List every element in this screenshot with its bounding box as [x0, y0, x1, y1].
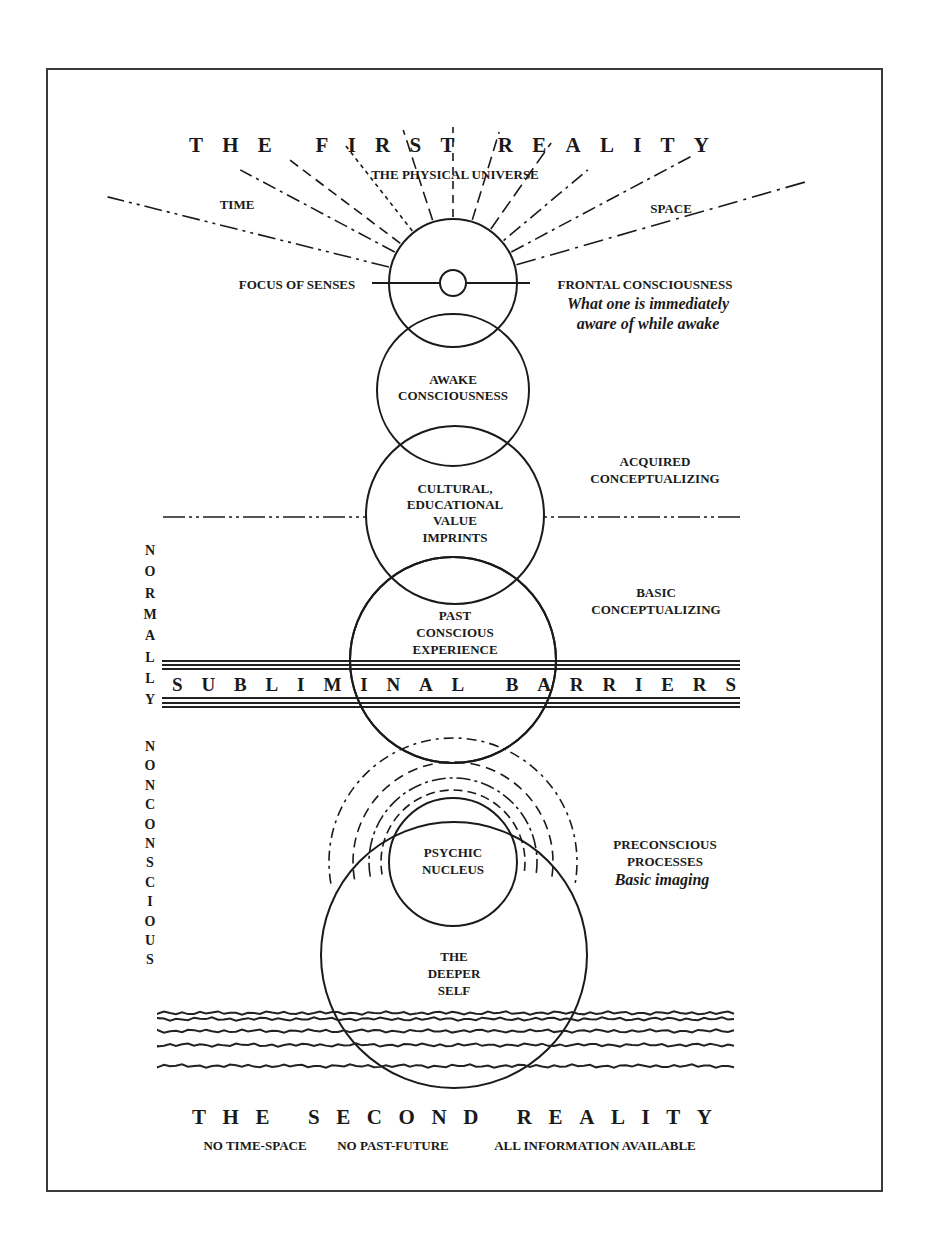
basic-label-2: CONCEPTUALIZING — [591, 602, 720, 617]
past-label-3: EXPERIENCE — [412, 642, 497, 657]
vertical-letter: N — [145, 836, 155, 851]
deeper-label-2: DEEPER — [428, 966, 481, 981]
label-frontal-note-1: What one is immediately — [567, 295, 730, 313]
vertical-letter: C — [145, 797, 155, 812]
label-physical-universe: THE PHYSICAL UNIVERSE — [371, 167, 539, 182]
awake-label-1: AWAKE — [429, 372, 477, 387]
label-frontal-consciousness: FRONTAL CONSCIOUSNESS — [558, 277, 733, 292]
first-second-reality-diagram: THE FIRST REALITY THE PHYSICAL UNIVERSE … — [0, 0, 931, 1249]
sensory-ray — [240, 170, 395, 252]
vertical-letter: U — [145, 933, 155, 948]
vertical-letter: R — [145, 586, 156, 601]
vertical-letter: L — [145, 671, 154, 686]
circle-past-experience — [350, 557, 556, 763]
cultural-label-1: CULTURAL, — [417, 481, 492, 496]
vertical-letter: N — [145, 778, 155, 793]
wavy-line — [158, 1011, 734, 1015]
vertical-letter: S — [146, 952, 154, 967]
bottom-note-information: ALL INFORMATION AVAILABLE — [494, 1138, 696, 1153]
wavy-line — [158, 1064, 734, 1067]
vertical-letter: L — [145, 650, 154, 665]
deep-wavy-lines — [158, 1011, 734, 1068]
vertical-letter: N — [145, 739, 155, 754]
label-focus-of-senses: FOCUS OF SENSES — [239, 277, 356, 292]
vertical-letter: O — [145, 817, 156, 832]
bottom-title: THE SECOND REALITY — [192, 1105, 712, 1129]
vertical-letter: Y — [145, 692, 155, 707]
focus-point-circle — [440, 270, 466, 296]
psychic-label-1: PSYCHIC — [424, 845, 483, 860]
wavy-line — [158, 1043, 734, 1047]
vertical-letter: M — [143, 607, 156, 622]
top-title: THE FIRST REALITY — [189, 133, 709, 157]
wavy-line — [158, 1017, 734, 1020]
vertical-letter: C — [145, 875, 155, 890]
cultural-label-2: EDUCATIONAL — [407, 497, 504, 512]
past-label-1: PAST — [439, 608, 472, 623]
preconscious-label-2: PROCESSES — [627, 854, 703, 869]
vertical-letter: O — [145, 914, 156, 929]
preconscious-note: Basic imaging — [614, 871, 710, 889]
awake-label-2: CONSCIOUSNESS — [398, 388, 508, 403]
past-label-2: CONSCIOUS — [416, 625, 493, 640]
vertical-letter: O — [145, 758, 156, 773]
vertical-label-nonconscious: NONCONSCIOUS — [145, 739, 156, 967]
vertical-letter: N — [145, 543, 155, 558]
wavy-line — [158, 1029, 734, 1033]
circle-labels: AWAKE CONSCIOUSNESS CULTURAL, EDUCATIONA… — [398, 372, 508, 657]
vertical-letter: I — [147, 894, 152, 909]
acquired-label-1: ACQUIRED — [620, 454, 691, 469]
psychic-label-2: NUCLEUS — [422, 862, 484, 877]
bottom-note-time-space: NO TIME-SPACE — [203, 1138, 306, 1153]
label-frontal-note-2: aware of while awake — [577, 315, 720, 333]
sensory-ray — [516, 182, 804, 265]
vertical-letter: O — [145, 564, 156, 579]
vertical-label-normally: NORMALLY — [143, 543, 156, 707]
label-space: SPACE — [650, 201, 692, 216]
bottom-note-past-future: NO PAST-FUTURE — [337, 1138, 449, 1153]
sensory-ray — [345, 144, 413, 231]
cultural-label-3: VALUE — [433, 513, 477, 528]
vertical-letter: S — [146, 855, 154, 870]
basic-label-1: BASIC — [636, 585, 676, 600]
acquired-label-2: CONCEPTUALIZING — [590, 471, 719, 486]
preconscious-label-1: PRECONSCIOUS — [613, 837, 716, 852]
subliminal-barriers: SUBLIMINAL BARRIERS — [162, 661, 740, 707]
deeper-label-3: SELF — [438, 983, 471, 998]
cultural-label-4: IMPRINTS — [422, 530, 487, 545]
label-time: TIME — [220, 197, 255, 212]
circle-past-experience-overlay — [350, 557, 556, 763]
deeper-label-1: THE — [440, 949, 467, 964]
vertical-letter: A — [145, 628, 156, 643]
